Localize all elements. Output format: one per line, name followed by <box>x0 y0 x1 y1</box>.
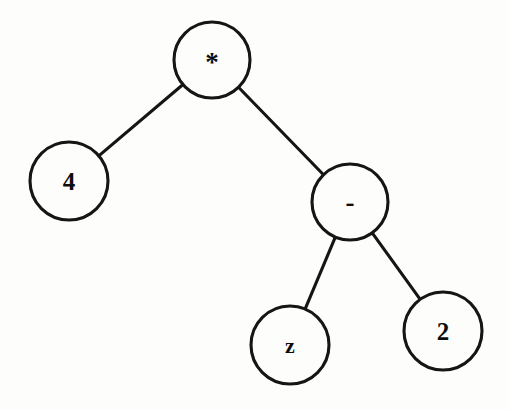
node-label-left: 4 <box>63 168 76 195</box>
tree-node-left[interactable]: 4 <box>30 142 108 220</box>
node-layer: *4-z2 <box>30 22 482 384</box>
edge-root-left <box>99 85 183 156</box>
edge-root-right <box>238 87 323 175</box>
edge-right-rightleft <box>305 237 335 309</box>
expression-tree-diagram: *4-z2 <box>0 0 508 410</box>
diagram-canvas: *4-z2 <box>0 0 508 410</box>
tree-node-right-right[interactable]: 2 <box>404 292 482 370</box>
tree-node-right[interactable]: - <box>312 164 388 240</box>
node-label-right: - <box>346 187 355 217</box>
tree-node-root[interactable]: * <box>174 22 250 98</box>
node-label-right-right: 2 <box>437 318 450 345</box>
node-label-root: * <box>205 47 219 77</box>
node-label-right-left: z <box>285 333 295 358</box>
edge-right-rightright <box>372 233 420 300</box>
tree-node-right-left[interactable]: z <box>251 306 329 384</box>
